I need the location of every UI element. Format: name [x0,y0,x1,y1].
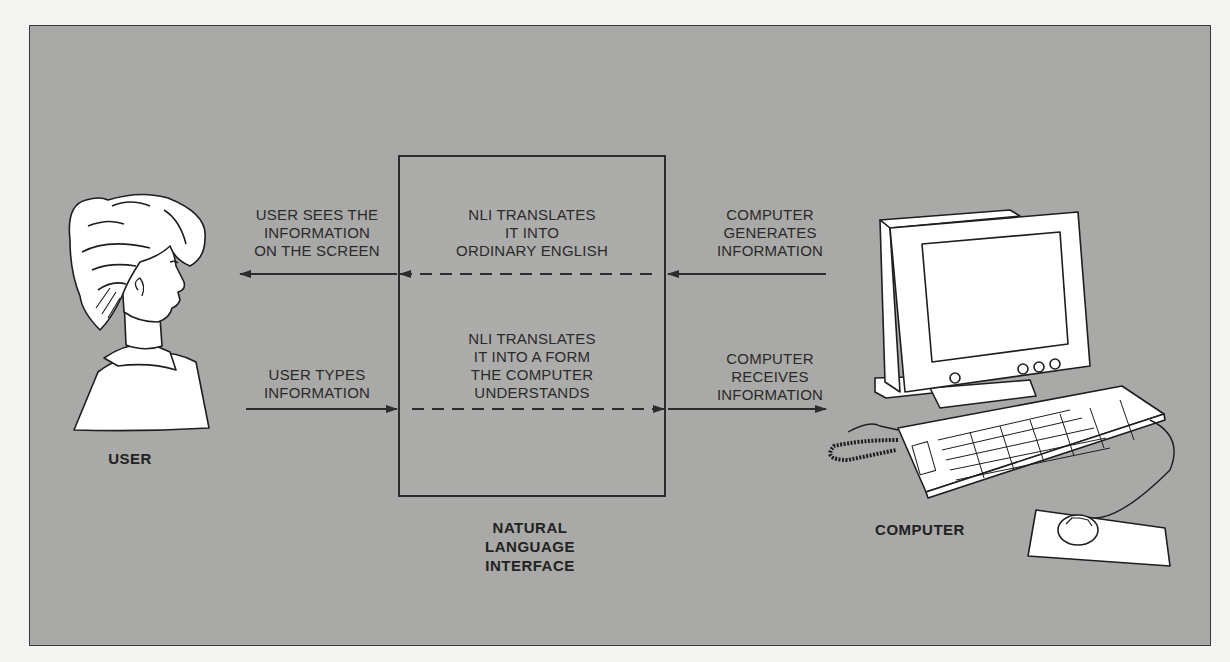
desktop-computer-icon [830,210,1174,566]
person-profile-icon [69,194,209,430]
diagram-lines [0,0,1230,662]
